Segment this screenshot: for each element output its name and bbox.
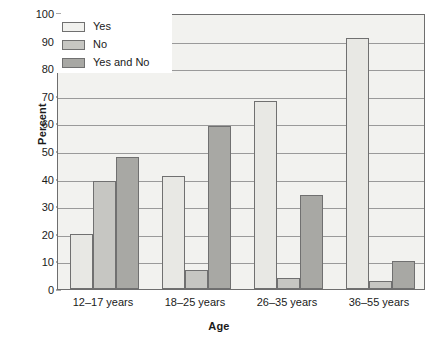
bar bbox=[116, 157, 139, 289]
legend-item: Yes and No bbox=[62, 54, 172, 71]
x-tick-label: 18–25 years bbox=[165, 297, 226, 308]
legend-label: Yes and No bbox=[93, 57, 149, 68]
legend: YesNoYes and No bbox=[56, 14, 172, 73]
y-tick-label: 40 bbox=[18, 174, 54, 185]
y-axis-ticks: 0102030405060708090100 bbox=[18, 0, 54, 340]
bar bbox=[392, 261, 415, 289]
legend-swatch bbox=[62, 58, 85, 68]
y-tick-label: 10 bbox=[18, 257, 54, 268]
legend-item: Yes bbox=[62, 18, 172, 35]
bar bbox=[346, 38, 369, 289]
bar bbox=[70, 234, 93, 289]
x-tick-label: 36–55 years bbox=[349, 297, 410, 308]
bar bbox=[369, 281, 392, 289]
bar bbox=[208, 126, 231, 289]
y-tick-label: 60 bbox=[18, 119, 54, 130]
y-tick-label: 70 bbox=[18, 91, 54, 102]
x-axis-title: Age bbox=[0, 320, 438, 332]
bar bbox=[277, 278, 300, 289]
bar bbox=[93, 181, 116, 289]
bar bbox=[162, 176, 185, 289]
x-tick-label: 12–17 years bbox=[73, 297, 134, 308]
legend-label: No bbox=[93, 39, 107, 50]
y-tick-label: 50 bbox=[18, 147, 54, 158]
bar bbox=[254, 101, 277, 289]
y-tick-label: 80 bbox=[18, 64, 54, 75]
y-tick-label: 90 bbox=[18, 36, 54, 47]
y-tick-label: 30 bbox=[18, 202, 54, 213]
x-tick-label: 26–35 years bbox=[257, 297, 318, 308]
y-tick-label: 20 bbox=[18, 229, 54, 240]
legend-label: Yes bbox=[93, 21, 111, 32]
bar-chart: Percent 0102030405060708090100 YesNoYes … bbox=[0, 0, 438, 340]
y-tick-label: 0 bbox=[18, 285, 54, 296]
legend-item: No bbox=[62, 36, 172, 53]
bar bbox=[300, 195, 323, 289]
legend-swatch bbox=[62, 22, 85, 32]
y-tick-label: 100 bbox=[18, 9, 54, 20]
legend-swatch bbox=[62, 40, 85, 50]
bar bbox=[185, 270, 208, 289]
